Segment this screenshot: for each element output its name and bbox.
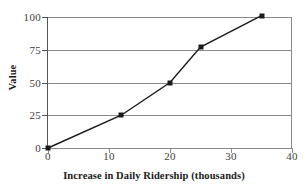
plot-area xyxy=(48,17,292,148)
y-tick-label: 100 xyxy=(24,11,41,23)
y-tick-label: 0 xyxy=(35,142,41,154)
x-axis-tick-labels: 010203040 xyxy=(48,150,292,166)
x-tick-label: 20 xyxy=(164,150,176,162)
y-tick-mark xyxy=(42,50,47,51)
y-tick-label: 75 xyxy=(29,44,41,56)
series-polyline xyxy=(48,16,262,148)
y-axis-title: Value xyxy=(7,48,18,108)
data-point-marker xyxy=(119,113,124,118)
x-tick-label: 30 xyxy=(225,150,237,162)
x-tick-label: 40 xyxy=(286,150,298,162)
y-tick-mark xyxy=(42,17,47,18)
data-point-marker xyxy=(198,45,203,50)
x-tick-label: 0 xyxy=(45,150,51,162)
y-tick-label: 25 xyxy=(29,109,41,121)
y-tick-mark xyxy=(42,83,47,84)
chart-container: 0255075100 010203040 Increase in Daily R… xyxy=(0,0,308,193)
data-point-marker xyxy=(168,80,173,85)
x-axis-title: Increase in Daily Ridership (thousands) xyxy=(0,170,308,181)
y-tick-mark xyxy=(42,115,47,116)
x-tick-label: 10 xyxy=(103,150,115,162)
y-tick-label: 50 xyxy=(29,77,41,89)
data-point-marker xyxy=(259,13,264,18)
